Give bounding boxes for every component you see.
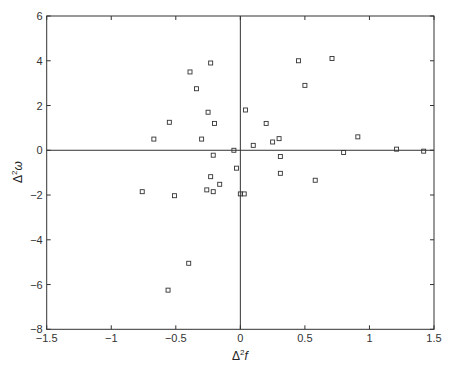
- data-point-marker: [152, 137, 156, 141]
- data-point-marker: [205, 188, 209, 192]
- data-point-marker: [140, 190, 144, 194]
- data-point-marker: [296, 59, 300, 63]
- data-point-marker: [211, 153, 215, 157]
- data-point-marker: [234, 166, 238, 170]
- y-tick-label: 6: [37, 10, 43, 22]
- data-point-marker: [187, 261, 191, 265]
- tick-labels: −1.5−1−0.500.511.5−8−6−4−20246: [30, 10, 441, 344]
- data-point-marker: [166, 288, 170, 292]
- x-tick-label: 0.5: [297, 332, 312, 344]
- data-point-marker: [303, 83, 307, 87]
- data-point-marker: [209, 61, 213, 65]
- data-point-marker: [218, 182, 222, 186]
- y-tick-label: 4: [37, 55, 43, 67]
- data-point-marker: [313, 178, 317, 182]
- y-tick-label: −6: [30, 279, 43, 291]
- data-point-marker: [271, 140, 275, 144]
- data-point-marker: [213, 121, 217, 125]
- data-point-marker: [356, 135, 360, 139]
- data-point-marker: [244, 108, 248, 112]
- x-tick-label: 1.5: [426, 332, 441, 344]
- data-point-marker: [277, 137, 281, 141]
- data-point-marker: [188, 70, 192, 74]
- data-point-marker: [167, 120, 171, 124]
- data-point-marker: [206, 110, 210, 114]
- data-point-marker: [211, 190, 215, 194]
- data-point-marker: [278, 155, 282, 159]
- data-point-marker: [200, 137, 204, 141]
- x-tick-label: −0.5: [165, 332, 187, 344]
- x-tick-label: 1: [366, 332, 372, 344]
- data-point-marker: [173, 194, 177, 198]
- x-tick-label: −1: [105, 332, 118, 344]
- x-tick-label: 0: [237, 332, 243, 344]
- data-point-marker: [194, 87, 198, 91]
- data-point-marker: [251, 143, 255, 147]
- data-points: [140, 57, 425, 293]
- data-point-marker: [422, 149, 426, 153]
- y-tick-label: −2: [30, 189, 43, 201]
- data-point-marker: [278, 171, 282, 175]
- data-point-marker: [330, 57, 334, 61]
- y-tick-label: −8: [30, 323, 43, 335]
- y-tick-label: 2: [37, 100, 43, 112]
- zero-lines: [47, 16, 434, 329]
- y-tick-label: −4: [30, 234, 43, 246]
- data-point-marker: [264, 121, 268, 125]
- data-point-marker: [242, 192, 246, 196]
- y-tick-label: 0: [37, 144, 43, 156]
- data-point-marker: [209, 175, 213, 179]
- x-axis-label: Δ2f: [232, 348, 249, 363]
- y-axis-label: Δ2ω: [10, 161, 25, 183]
- data-point-marker: [342, 151, 346, 155]
- scatter-chart: −1.5−1−0.500.511.5−8−6−4−20246 Δ2f Δ2ω: [0, 0, 451, 370]
